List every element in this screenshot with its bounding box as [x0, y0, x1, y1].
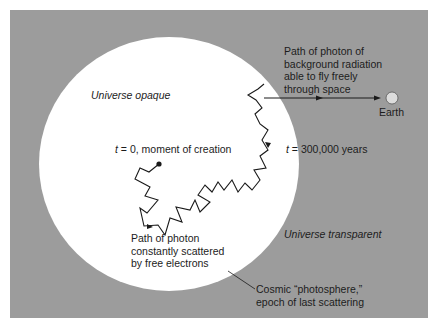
photosphere-line-1: Cosmic “photosphere,”	[256, 283, 364, 296]
free-path-label: Path of photon of background radiation a…	[284, 45, 382, 95]
scattered-line-1: Path of photon	[131, 232, 224, 245]
universe-opaque-label: Universe opaque	[91, 89, 170, 102]
free-path-line-4: through space	[284, 83, 382, 96]
earth-icon	[386, 92, 398, 104]
free-path-line-2: background radiation	[284, 58, 382, 71]
t300k-text: = 300,000 years	[289, 143, 368, 155]
t300k-label: t = 300,000 years	[286, 143, 367, 156]
scattered-line-2: constantly scattered	[131, 245, 224, 258]
free-path-line-1: Path of photon of	[284, 45, 382, 58]
photosphere-leader-line	[228, 271, 255, 289]
t0-text: = 0, moment of creation	[118, 143, 232, 155]
scattered-line-3: by free electrons	[131, 257, 224, 270]
photosphere-line-2: epoch of last scattering	[256, 296, 364, 309]
free-path-line-3: able to fly freely	[284, 70, 382, 83]
earth-label: Earth	[379, 106, 404, 119]
free-path-arrowhead-mid	[316, 96, 323, 101]
free-path-arrowhead-end	[374, 96, 381, 101]
t0-label: t = 0, moment of creation	[115, 143, 231, 156]
creation-point	[156, 161, 161, 166]
universe-transparent-label: Universe transparent	[284, 228, 381, 241]
photosphere-label: Cosmic “photosphere,” epoch of last scat…	[256, 283, 364, 308]
scattered-path-label: Path of photon constantly scattered by f…	[131, 232, 224, 270]
